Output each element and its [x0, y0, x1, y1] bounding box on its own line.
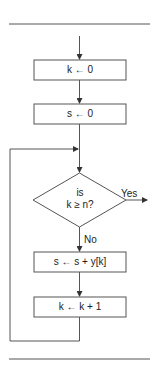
decision-line1: is	[34, 187, 126, 198]
step-increment: k ← k + 1	[34, 301, 126, 312]
yes-label: Yes	[121, 188, 137, 199]
step-accumulate: s ← s + y[k]	[34, 256, 126, 267]
no-label: No	[84, 234, 97, 245]
loop-back-line	[10, 149, 80, 341]
step-init-s: s ← 0	[34, 108, 126, 119]
decision-line2: k ≥ n?	[34, 199, 126, 210]
step-init-k: k ← 0	[34, 64, 126, 75]
